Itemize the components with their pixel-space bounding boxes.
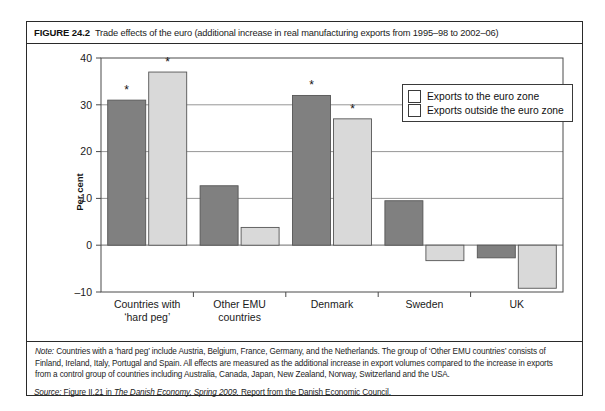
legend-label-exports-to-euro-zone: Exports to the euro zone [427,91,539,102]
y-tick-label--10: –10 [74,286,92,298]
bar-1-1 [241,227,279,245]
source-lead-label: Source: [34,388,61,397]
bar-1-0 [149,72,187,245]
significance-marker-0-2: * [309,78,314,92]
chart-plot-region: Per cent –10010203040 Countries with‘har… [27,44,582,341]
bar-0-4 [477,245,515,258]
x-category-label-4-0: UK [510,298,525,310]
note-line-1: Note: Countries with a ‘hard peg’ includ… [35,346,572,358]
significance-marker-1-2: * [350,102,355,116]
x-axis-category-labels: Countries with‘hard peg’Other EMUcountri… [114,298,524,323]
bar-0-2 [293,95,331,245]
y-tick-label-30: 30 [80,99,92,111]
bar-1-2 [334,119,372,245]
note-line-3: from a control group of countries includ… [35,369,572,381]
x-category-label-0-1: ‘hard peg’ [124,311,170,323]
chart-legend: Exports to the euro zone Exports outside… [402,84,573,122]
y-tick-label-0: 0 [86,239,92,251]
legend-item-0: Exports to the euro zone [408,89,564,103]
legend-label-exports-outside-euro-zone: Exports outside the euro zone [427,105,564,116]
y-tick-label-20: 20 [80,145,92,157]
bar-0-0 [108,100,146,245]
legend-item-1: Exports outside the euro zone [408,103,564,117]
x-category-label-1-0: Other EMU [213,298,266,310]
legend-swatch-exports-outside-euro-zone [408,104,421,117]
figure-title-bar: FIGURE 24.2 Trade effects of the euro (a… [27,22,582,44]
figure-caption: Trade effects of the euro (additional in… [95,28,498,38]
x-category-label-2-0: Denmark [311,298,354,310]
y-tick-label-40: 40 [80,52,92,64]
source-pre-text: Figure II.21 in [61,388,114,397]
note-text-1: Countries with a ‘hard peg’ include Aust… [54,347,546,356]
note-lead-label: Note: [35,347,54,356]
y-axis-tick-labels: –10010203040 [74,52,92,298]
x-category-label-3-0: Sweden [405,298,443,310]
x-category-label-0-0: Countries with [114,298,181,310]
significance-marker-0-0: * [124,83,129,97]
bar-1-4 [518,245,556,288]
x-category-label-1-1: countries [218,311,261,323]
y-tick-label-10: 10 [80,192,92,204]
bar-0-1 [200,186,238,245]
note-line-2: Finland, Ireland, Italy, Portugal and Sp… [35,358,572,370]
figure-source: Source: Figure II.21 in The Danish Econo… [26,388,583,397]
bar-0-3 [385,201,423,245]
legend-swatch-exports-to-euro-zone [408,90,421,103]
source-publication-title: The Danish Economy, Spring 2009. [114,388,239,397]
significance-marker-1-0: * [165,55,170,69]
figure-frame: FIGURE 24.2 Trade effects of the euro (a… [26,21,583,396]
source-post-text: Report from the Danish Economic Council. [239,388,391,397]
source-line: Source: Figure II.21 in The Danish Econo… [34,388,583,397]
figure-number-label: FIGURE 24.2 [34,27,90,38]
bar-1-3 [426,245,464,260]
